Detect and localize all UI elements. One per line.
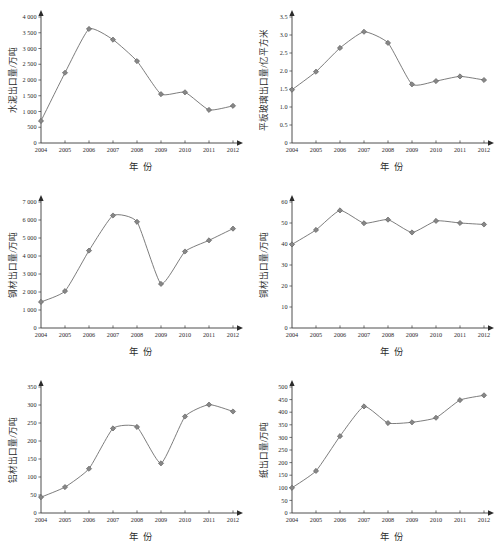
y-tick-label: 350 <box>278 421 287 428</box>
x-tick-label: 2005 <box>59 516 71 523</box>
y-tick-label: 5 000 <box>23 234 37 241</box>
y-tick-label: 4 000 <box>23 252 37 259</box>
data-point-marker: 2006: 4300 <box>86 248 91 253</box>
y-tick-label: 2 000 <box>23 288 37 295</box>
series-line <box>41 215 233 302</box>
y-axis-label: 钢材出口量/万吨 <box>7 232 18 297</box>
x-tick-label: 2009 <box>155 331 167 338</box>
y-tick-label: 1.5 <box>280 85 288 92</box>
chart-panel-4: 0102030405060200420052006200720082009201… <box>251 185 502 370</box>
chart-canvas: 05001 0001 5002 0002 5003 0003 5004 0002… <box>0 0 251 185</box>
x-tick-label: 2009 <box>155 516 167 523</box>
y-tick-label: 200 <box>278 459 287 466</box>
x-tick-label: 2012 <box>478 516 490 523</box>
data-point-marker: 2008: 357 <box>385 420 390 425</box>
x-tick-label: 2006 <box>83 516 95 523</box>
x-tick-label: 2010 <box>430 146 442 153</box>
chart-panel-3: 01 0002 0003 0004 0005 0006 0007 0002004… <box>0 185 251 370</box>
x-tick-label: 2006 <box>334 516 346 523</box>
y-tick-label: 0.5 <box>280 121 288 128</box>
y-tick-label: 1 500 <box>23 92 37 99</box>
x-tick-label: 2009 <box>406 331 418 338</box>
x-tick-label: 2012 <box>227 516 239 523</box>
x-tick-label: 2004 <box>286 516 298 523</box>
x-axis-label: 年 份 <box>129 346 154 357</box>
x-tick-label: 2008 <box>382 331 394 338</box>
data-point-marker: 2006: 56 <box>337 208 342 213</box>
data-point-marker: 2011: 448 <box>457 398 462 403</box>
y-tick-label: 1 000 <box>23 108 37 115</box>
data-point-marker: 2011: 50 <box>457 220 462 225</box>
data-point-marker: 2012: 5520 <box>230 226 235 231</box>
series-line <box>41 29 233 121</box>
x-axis-label: 年 份 <box>380 161 405 172</box>
y-axis-label: 纸出口量/万吨 <box>258 422 269 478</box>
data-point-marker: 2011: 1.85 <box>457 74 462 79</box>
x-axis-label: 年 份 <box>380 346 405 357</box>
y-tick-label: 3 000 <box>23 45 37 52</box>
x-tick-label: 2004 <box>35 516 47 523</box>
y-tick-label: 400 <box>278 408 287 415</box>
x-tick-label: 2008 <box>382 516 394 523</box>
chart-canvas: 0501001502002503003504004505002004200520… <box>251 370 502 555</box>
data-point-marker: 2008: 51.6 <box>385 217 390 222</box>
x-tick-label: 2011 <box>454 516 466 523</box>
x-tick-label: 2012 <box>227 146 239 153</box>
x-tick-label: 2011 <box>454 146 466 153</box>
y-axis-label: 铝材出口量/万吨 <box>7 417 18 482</box>
y-axis-label: 平板玻璃出口量/亿平方米 <box>258 29 269 130</box>
y-tick-label: 300 <box>27 401 36 408</box>
chart-panel-2: 00.51.01.52.02.53.03.5200420052006200720… <box>251 0 502 185</box>
x-tick-label: 2005 <box>59 331 71 338</box>
x-tick-label: 2009 <box>406 516 418 523</box>
y-tick-label: 150 <box>278 471 287 478</box>
chart-panel-6: 0501001502002503003504004505002004200520… <box>251 370 502 556</box>
chart-panel-1: 05001 0001 5002 0002 5003 0003 5004 0002… <box>0 0 251 185</box>
x-tick-label: 2007 <box>107 331 119 338</box>
x-tick-label: 2007 <box>358 146 370 153</box>
x-tick-label: 2011 <box>454 331 466 338</box>
chart-canvas: 0501001502002503003502004200520062007200… <box>0 370 251 555</box>
x-tick-label: 2011 <box>203 146 215 153</box>
data-point-marker: 2007: 3.09 <box>361 29 366 34</box>
y-tick-label: 2.5 <box>280 49 288 56</box>
y-tick-label: 7 000 <box>23 198 37 205</box>
y-tick-label: 3.5 <box>280 13 288 20</box>
data-point-marker: 2004: 1450 <box>38 299 43 304</box>
chart-grid: 05001 0001 5002 0002 5003 0003 5004 0002… <box>0 0 502 556</box>
y-tick-label: 1.0 <box>280 103 288 110</box>
x-tick-label: 2010 <box>430 331 442 338</box>
x-tick-label: 2011 <box>203 516 215 523</box>
x-tick-label: 2007 <box>107 516 119 523</box>
data-point-marker: 2011: 4870 <box>206 238 211 243</box>
y-tick-label: 2 000 <box>23 76 37 83</box>
x-tick-label: 2004 <box>286 146 298 153</box>
x-tick-label: 2007 <box>358 516 370 523</box>
x-tick-label: 2011 <box>203 331 215 338</box>
y-tick-label: 10 <box>281 303 287 310</box>
y-tick-label: 250 <box>278 446 287 453</box>
x-tick-label: 2005 <box>310 331 322 338</box>
y-axis-arrow-icon <box>289 195 294 201</box>
series-line <box>292 395 484 487</box>
data-point-marker: 2004: 100 <box>289 485 294 490</box>
y-tick-label: 100 <box>278 484 287 491</box>
y-tick-label: 4 000 <box>23 13 37 20</box>
y-axis-arrow-icon <box>38 195 43 201</box>
x-tick-label: 2004 <box>35 331 47 338</box>
y-tick-label: 3.0 <box>280 31 288 38</box>
y-tick-label: 3 000 <box>23 270 37 277</box>
y-axis-arrow-icon <box>38 10 43 16</box>
data-point-marker: 2005: 2230 <box>62 70 67 75</box>
x-tick-label: 2008 <box>131 146 143 153</box>
y-tick-label: 3 500 <box>23 29 37 36</box>
x-tick-label: 2006 <box>334 146 346 153</box>
data-point-marker: 2012: 1.75 <box>481 77 486 82</box>
data-point-marker: 2011: 1050 <box>206 107 211 112</box>
x-tick-label: 2005 <box>310 146 322 153</box>
series-line <box>292 210 484 244</box>
x-tick-label: 2004 <box>35 146 47 153</box>
y-tick-label: 300 <box>278 434 287 441</box>
chart-canvas: 00.51.01.52.02.53.03.5200420052006200720… <box>251 0 502 185</box>
x-tick-label: 2004 <box>286 331 298 338</box>
